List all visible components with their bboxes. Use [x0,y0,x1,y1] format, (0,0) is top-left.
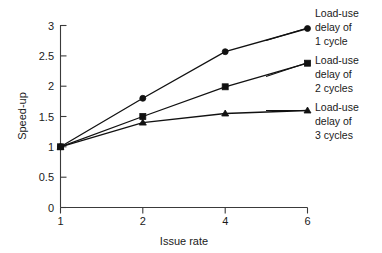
series-1-cycle-marker-3 [222,49,228,55]
y-tick-label-2: 2 [48,80,54,92]
series-1-cycle-marker-1 [58,144,64,150]
speedup-vs-issue-rate-chart: 3 2.5 2 1.5 1 0.5 0 1 2 4 6 Issue rate S… [0,0,382,253]
series-2-cycles-marker-2 [140,114,146,120]
annotation-series-1-line-1: Load-use [315,7,359,19]
y-tick-labels: 3 2.5 2 1.5 1 0.5 0 [39,20,54,214]
x-tick-labels: 1 2 4 6 [57,215,310,227]
annotation-series-1-line-3: 1 cycle [315,35,348,47]
annotation-label-series-3: Load-use delay of 3 cycles [315,101,359,141]
annotation-series-2-line-1: Load-use [315,54,359,66]
series-1-cycle-marker-2 [140,95,146,101]
x-tick-label-6: 6 [304,215,310,227]
annotation-label-series-1: Load-use delay of 1 cycle [315,7,359,47]
series-1-cycle [58,26,311,150]
axis-group [61,25,308,208]
series-1-cycle-marker-4 [305,26,311,32]
x-tick-marks [61,208,308,214]
y-tick-label-0-5: 0.5 [39,171,54,183]
annotation-series-2-line-2: delay of [315,68,352,80]
y-axis-title: Speed-up [16,92,28,140]
y-tick-label-0: 0 [48,202,54,214]
leader-line-series-2 [266,64,305,77]
x-tick-label-2: 2 [140,215,146,227]
y-tick-marks [61,26,67,208]
x-tick-label-1: 1 [57,215,63,227]
annotation-series-3-line-2: delay of [315,115,352,127]
series-2-cycles-marker-4 [305,60,311,66]
annotation-series-1-line-2: delay of [315,21,352,33]
chart-canvas: 3 2.5 2 1.5 1 0.5 0 1 2 4 6 Issue rate S… [0,0,382,253]
annotation-leader-lines [266,29,305,111]
series-1-cycle-line [61,29,308,147]
annotation-series-2-line-3: 2 cycles [315,82,353,94]
series-3-cycles-line [61,111,308,147]
y-tick-label-1: 1 [48,141,54,153]
annotation-series-3-line-3: 3 cycles [315,129,353,141]
series-3-cycles [57,107,311,149]
series-2-cycles-marker-3 [222,84,228,90]
x-axis-title: Issue rate [160,235,208,247]
y-tick-label-1-5: 1.5 [39,111,54,123]
y-tick-label-2-5: 2.5 [39,50,54,62]
y-tick-label-3: 3 [48,20,54,32]
leader-line-series-1 [266,29,305,41]
annotation-label-series-2: Load-use delay of 2 cycles [315,54,359,94]
annotation-series-3-line-1: Load-use [315,101,359,113]
x-tick-label-4: 4 [222,215,228,227]
